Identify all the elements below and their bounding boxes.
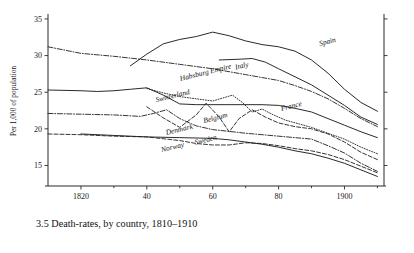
series-label-text: Belgium	[202, 110, 229, 125]
y-tick-label: 30	[34, 51, 42, 60]
y-axis-label: Per 1,000 of population	[10, 66, 18, 136]
x-tick-label: 1900	[336, 192, 352, 201]
series-label-spain: Spain	[318, 35, 337, 48]
series-label-text: Habsburg Empire	[178, 61, 233, 83]
x-tick-label: 60	[209, 192, 217, 201]
x-tick-label: 1820	[73, 192, 89, 201]
series-label-text: Switzerland	[155, 87, 191, 104]
series-label-belgium: Belgium	[202, 110, 229, 125]
series-labels: SpainItalyHabsburg EmpireFranceSwitzerla…	[155, 35, 337, 154]
tick-labels: 152025303518204060801900	[34, 15, 352, 201]
series-label-text: Spain	[318, 35, 337, 48]
x-tick-label: 80	[275, 192, 283, 201]
series-label-text: Denmark	[164, 121, 195, 137]
figure-container: 152025303518204060801900 SpainItalyHabsb…	[0, 0, 414, 253]
y-tick-label: 25	[34, 88, 42, 97]
series-label-text: France	[279, 99, 304, 113]
series-label-text: Italy	[233, 59, 250, 71]
y-tick-label: 20	[34, 125, 42, 134]
series-label-france: France	[279, 99, 304, 113]
y-axis-label-text: Per 1,000 of population	[10, 66, 18, 136]
axes	[45, 14, 388, 190]
figure-caption: 3.5 Death-rates, by country, 1810–1910	[36, 218, 197, 229]
series-label-norway: Norway	[159, 140, 186, 155]
y-axis-label-group: Per 1,000 of population	[10, 66, 18, 136]
series-label-italy: Italy	[233, 59, 250, 71]
series-label-text: Norway	[159, 140, 186, 155]
series-label-habsburg-empire: Habsburg Empire	[178, 61, 233, 83]
x-tick-label: 40	[143, 192, 151, 201]
series-label-denmark: Denmark	[164, 121, 195, 137]
death-rates-line-chart: 152025303518204060801900 SpainItalyHabsb…	[0, 0, 414, 253]
y-tick-label: 35	[34, 15, 42, 24]
series-lines	[48, 32, 377, 176]
series-line-norway	[81, 134, 377, 177]
y-tick-label: 15	[34, 161, 42, 170]
series-label-switzerland: Switzerland	[155, 87, 191, 104]
